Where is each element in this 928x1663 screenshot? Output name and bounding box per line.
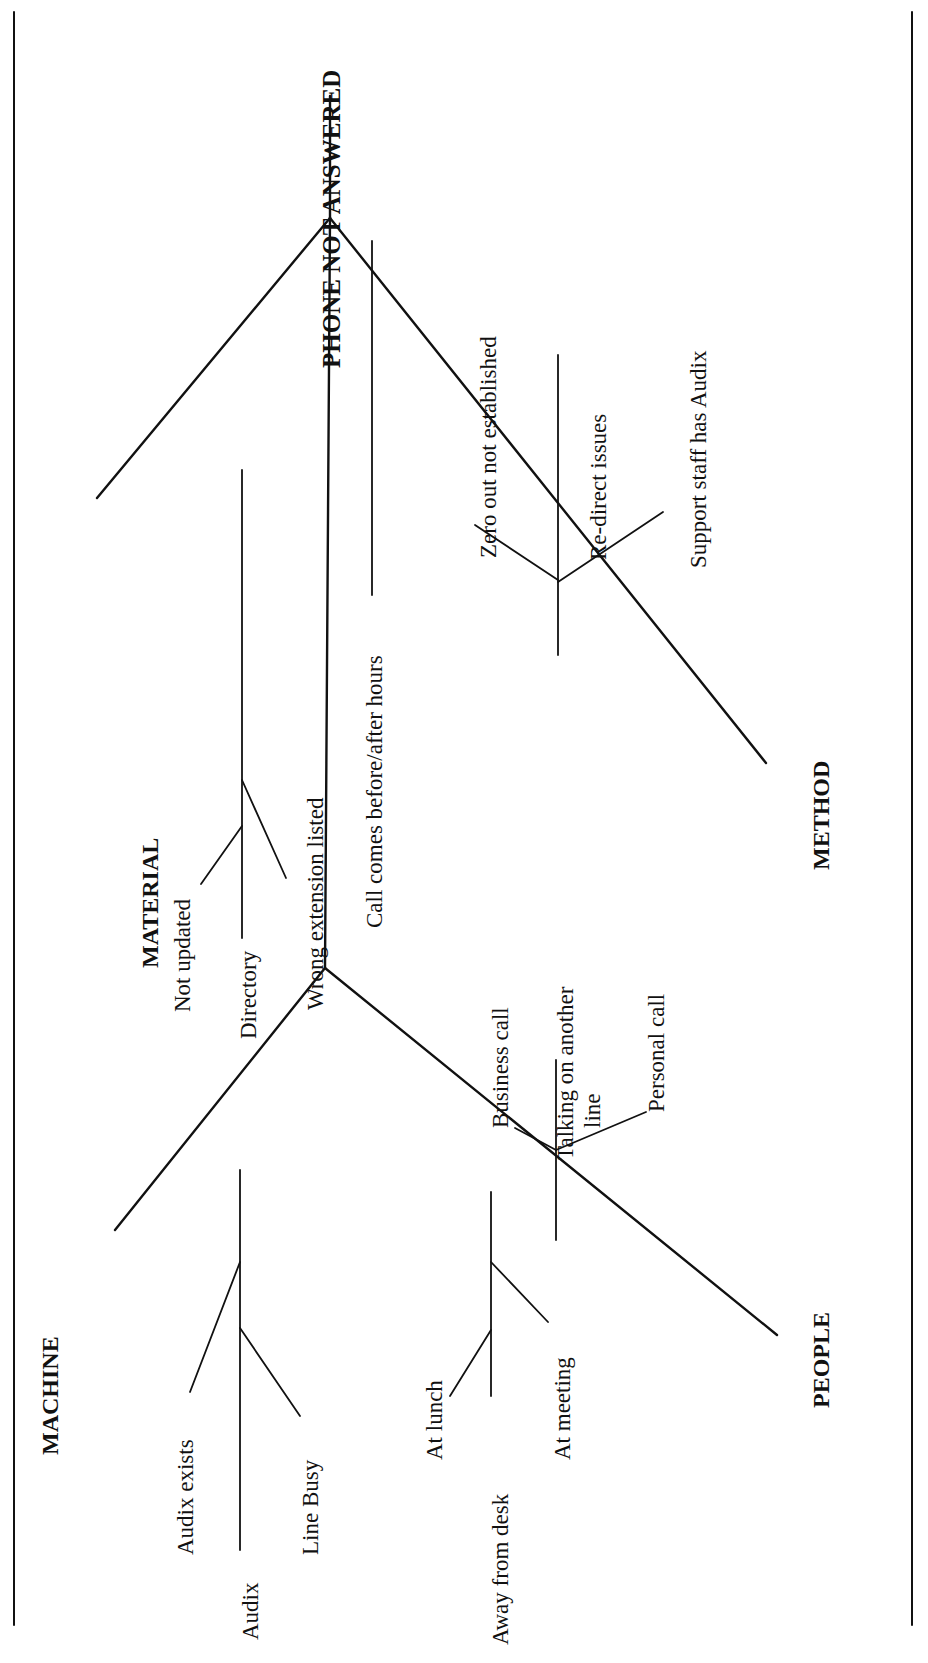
business-call-bone <box>515 1128 556 1150</box>
fishbone-diagram: PHONE NOT ANSWERED MATERIAL Not updated … <box>0 0 928 1663</box>
category-method-label: METHOD <box>808 761 834 870</box>
cause-talking-line1: Talking on another <box>553 986 578 1160</box>
category-machine-label: MACHINE <box>37 1336 63 1455</box>
not-updated-bone <box>201 826 242 884</box>
cause-not-updated: Not updated <box>170 898 195 1012</box>
category-people-label: PEOPLE <box>808 1312 834 1408</box>
cause-at-meeting: At meeting <box>550 1357 575 1460</box>
cause-wrong-extension: Wrong extension listed <box>303 797 328 1010</box>
cause-business-call: Business call <box>488 1007 513 1128</box>
cause-line-busy: Line Busy <box>298 1459 323 1555</box>
people-bone <box>325 968 777 1335</box>
at-meeting-bone <box>491 1262 548 1322</box>
cause-personal-call: Personal call <box>644 994 669 1112</box>
cause-zero-out: Zero out not established <box>476 336 501 558</box>
cause-away-from-desk: Away from desk <box>488 1493 513 1645</box>
machine-bone <box>115 968 325 1230</box>
cause-audix: Audix <box>238 1582 263 1640</box>
at-lunch-bone <box>450 1330 491 1396</box>
cause-talking-line2: line <box>580 1094 605 1129</box>
cause-directory: Directory <box>236 950 261 1039</box>
category-material-label: MATERIAL <box>137 838 163 968</box>
line-busy-bone <box>240 1328 300 1416</box>
cause-redirect: Re-direct issues <box>586 414 611 560</box>
audix-exists-bone <box>190 1262 240 1392</box>
material-bone <box>97 218 330 498</box>
cause-at-lunch: At lunch <box>422 1380 447 1460</box>
cause-support-staff: Support staff has Audix <box>686 350 711 568</box>
cause-audix-exists: Audix exists <box>173 1439 198 1555</box>
cause-call-hours: Call comes before/after hours <box>362 655 387 928</box>
wrong-extension-bone <box>242 780 286 878</box>
